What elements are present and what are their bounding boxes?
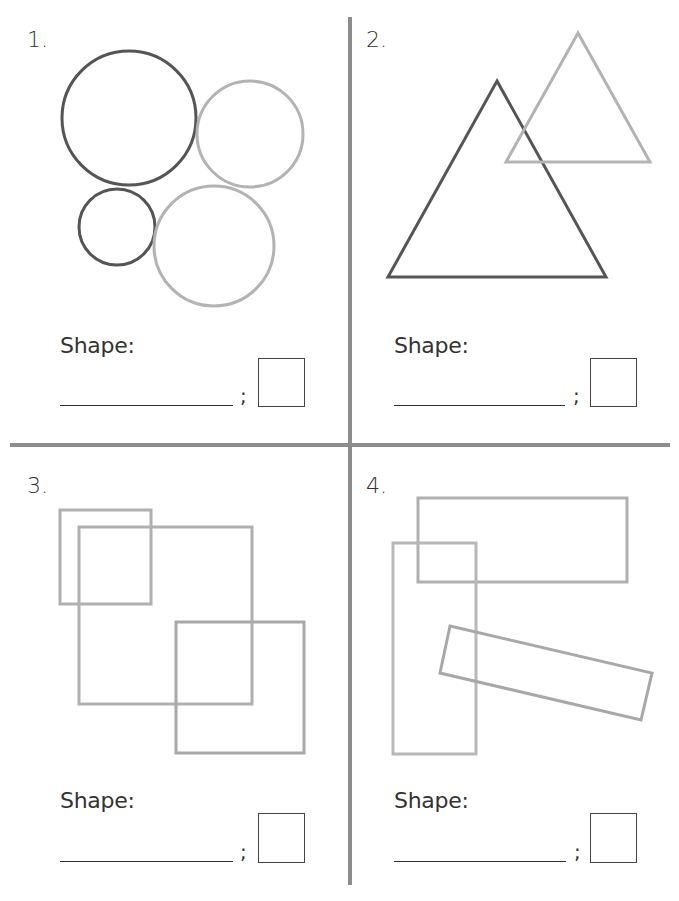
shape-label: Shape: <box>60 788 135 813</box>
separator: ; <box>240 384 247 408</box>
rectangle-figure <box>440 626 652 720</box>
triangle-figure <box>506 33 650 162</box>
panel-2-triangles <box>388 33 650 277</box>
panel-number: 3. <box>27 473 48 498</box>
count-box[interactable] <box>258 358 305 407</box>
count-box[interactable] <box>258 813 305 863</box>
square-figure <box>176 622 304 753</box>
figures-layer <box>0 0 679 901</box>
answer-line[interactable] <box>394 405 565 406</box>
circle-figure <box>62 51 196 185</box>
panel-1-circles <box>62 51 303 306</box>
shape-label: Shape: <box>394 788 469 813</box>
shape-label: Shape: <box>394 333 469 358</box>
separator: ; <box>573 384 580 408</box>
panel-3-squares <box>60 510 304 753</box>
separator: ; <box>240 840 247 864</box>
count-box[interactable] <box>590 813 637 863</box>
circle-figure <box>197 81 303 187</box>
count-box[interactable] <box>590 358 637 407</box>
panel-number: 1. <box>27 27 48 52</box>
answer-line[interactable] <box>394 861 566 862</box>
square-figure <box>60 510 151 604</box>
circle-figure <box>154 186 274 306</box>
shape-label: Shape: <box>60 333 135 358</box>
answer-line[interactable] <box>60 405 233 406</box>
rectangle-figure <box>418 498 627 582</box>
square-figure <box>79 527 252 704</box>
panel-number: 2. <box>366 27 387 52</box>
panel-4-rectangles <box>393 498 652 754</box>
answer-line[interactable] <box>60 861 233 862</box>
triangle-figure <box>388 81 606 277</box>
panel-number: 4. <box>366 473 387 498</box>
separator: ; <box>574 840 581 864</box>
rectangle-figure <box>393 543 476 754</box>
circle-figure <box>79 189 155 265</box>
